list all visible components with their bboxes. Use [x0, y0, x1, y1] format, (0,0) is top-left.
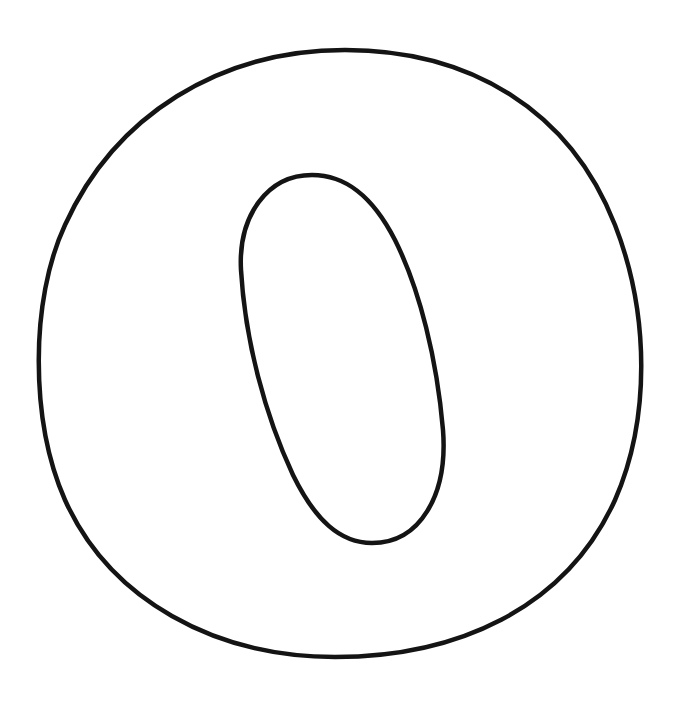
coloring-page: O [0, 0, 688, 705]
background [0, 0, 688, 705]
letter-o-drawing [0, 0, 688, 705]
